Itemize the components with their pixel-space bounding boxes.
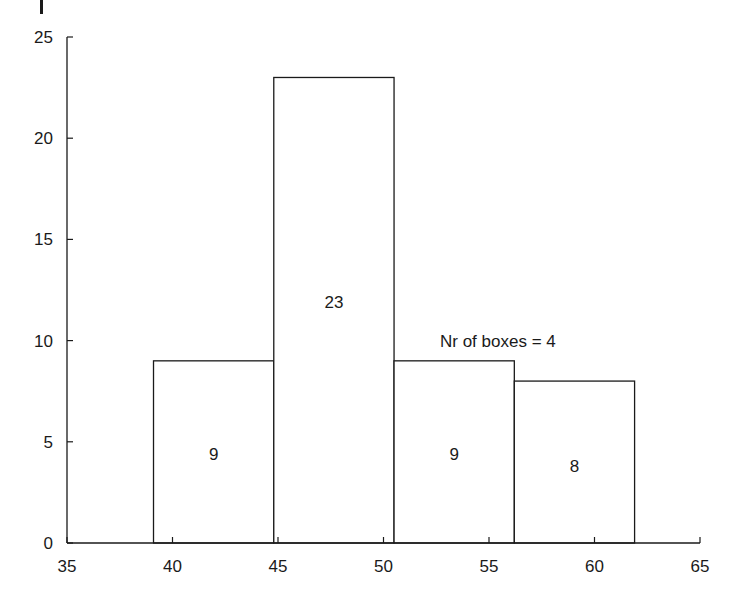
x-tick-label: 65 [691, 557, 710, 576]
bar-value-label: 23 [324, 293, 343, 312]
x-tick-label: 55 [480, 557, 499, 576]
x-tick-label: 50 [374, 557, 393, 576]
y-tick-label: 10 [34, 332, 53, 351]
x-tick-label: 45 [269, 557, 288, 576]
x-tick-label: 35 [58, 557, 77, 576]
y-tick-label: 25 [34, 28, 53, 47]
y-tick-label: 20 [34, 129, 53, 148]
bar-value-label: 9 [449, 445, 458, 464]
boxes-count-annotation: Nr of boxes = 4 [440, 332, 556, 351]
histogram-chart: 92398354045505560650510152025Nr of boxes… [0, 0, 733, 602]
bar-value-label: 9 [209, 445, 218, 464]
bars-group [154, 77, 635, 543]
y-tick-label: 15 [34, 230, 53, 249]
bar-value-label: 8 [570, 457, 579, 476]
x-tick-label: 60 [585, 557, 604, 576]
x-tick-label: 40 [163, 557, 182, 576]
y-tick-label: 5 [44, 433, 53, 452]
y-tick-label: 0 [44, 534, 53, 553]
